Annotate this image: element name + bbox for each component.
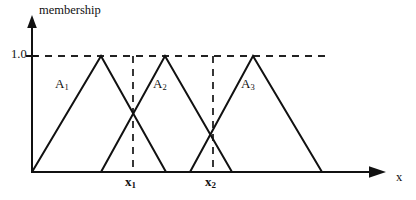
x-tick-label-x2-subscript: 2 — [212, 180, 217, 190]
membership-triangle-a3 — [190, 56, 322, 172]
set-label-a2-subscript: 2 — [162, 82, 166, 92]
x-axis-label: x — [396, 171, 402, 184]
set-label-a2: A2 — [153, 77, 167, 90]
set-label-a3-subscript: 3 — [250, 82, 254, 92]
set-label-a3: A3 — [241, 77, 255, 90]
x-axis-arrow-icon — [369, 166, 386, 178]
x-tick-label-x1-text: x — [125, 174, 132, 189]
y-tick-label-one: 1.0 — [11, 48, 27, 61]
y-axis-label: membership — [39, 4, 101, 17]
set-label-a2-text: A — [153, 76, 162, 91]
x-tick-label-x2-text: x — [205, 174, 212, 189]
set-label-a1-text: A — [55, 76, 64, 91]
y-axis-arrow-icon — [27, 15, 37, 28]
plot-canvas — [0, 0, 416, 200]
set-label-a3-text: A — [241, 76, 250, 91]
set-label-a1-subscript: 1 — [64, 82, 68, 92]
membership-triangle-a1 — [32, 56, 166, 172]
x-tick-label-x1: x1 — [125, 175, 136, 188]
x-tick-label-x1-subscript: 1 — [132, 180, 137, 190]
x-tick-label-x2: x2 — [205, 175, 216, 188]
set-label-a1: A1 — [55, 77, 69, 90]
fuzzy-membership-figure: membership 1.0 x A1 A2 A3 x1 x2 — [0, 0, 416, 200]
